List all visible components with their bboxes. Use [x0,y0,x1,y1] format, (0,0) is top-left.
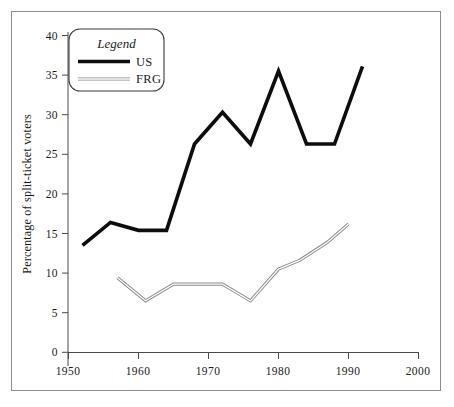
y-tick-label: 25 [46,148,58,160]
y-axis-ticks [62,36,68,353]
y-tick-label: 40 [46,30,58,42]
y-tick-label: 30 [46,109,58,121]
x-axis-ticks [69,353,419,360]
legend-label-frg: FRG [136,72,161,86]
y-tick-label: 0 [52,346,58,358]
x-tick-label: 1970 [196,365,221,377]
y-tick-label: 10 [46,267,58,279]
x-tick-label: 1960 [126,365,151,377]
y-axis-title: Percentage of split-ticket voters [20,114,34,274]
legend-title: Legend [96,36,136,51]
series-line-us [83,66,363,245]
line-chart: 40 35 30 25 20 15 10 5 0 Percentage of s… [0,0,454,407]
x-axis-tick-labels: 1950 1960 1970 1980 1990 2000 [56,365,431,377]
legend: Legend US FRG [69,29,164,91]
y-tick-label: 20 [46,188,58,200]
y-axis-tick-labels: 40 35 30 25 20 15 10 5 0 [46,30,58,359]
chart-page: 40 35 30 25 20 15 10 5 0 Percentage of s… [0,0,454,407]
series-line-frg-outline [118,224,349,301]
x-tick-label: 1990 [336,365,361,377]
y-tick-label: 15 [46,228,58,240]
x-tick-label: 2000 [406,365,431,377]
x-tick-label: 1950 [56,365,81,377]
y-tick-label: 35 [46,69,58,81]
legend-label-us: US [136,55,153,69]
y-tick-label: 5 [52,307,58,319]
x-tick-label: 1980 [266,365,291,377]
